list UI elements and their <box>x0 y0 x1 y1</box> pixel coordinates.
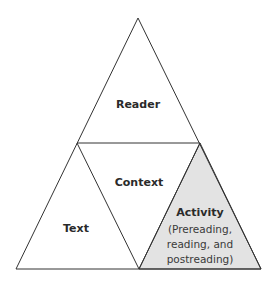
text-label: Text <box>63 222 89 235</box>
activity-subline: (Prereading, <box>168 223 232 235</box>
reading-triangle-diagram: Reader Context Text Activity (Prereading… <box>0 0 276 287</box>
reader-label: Reader <box>116 98 161 111</box>
context-label: Context <box>115 176 164 189</box>
activity-subline: postreading) <box>167 253 234 265</box>
activity-label: Activity <box>176 206 223 219</box>
divider-line <box>77 143 139 269</box>
activity-subline: reading, and <box>167 238 233 250</box>
